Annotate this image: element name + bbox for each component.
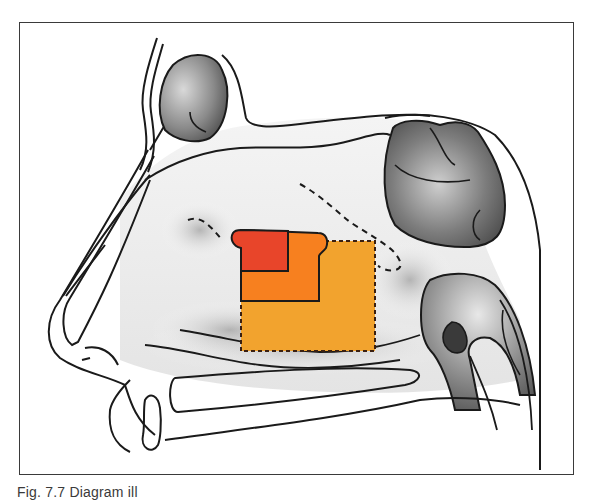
frontal-sinus [160,55,228,141]
highlighted-regions [232,230,375,351]
figure-caption: Fig. 7.7 Diagram ill [17,484,138,500]
region-small [232,230,288,271]
